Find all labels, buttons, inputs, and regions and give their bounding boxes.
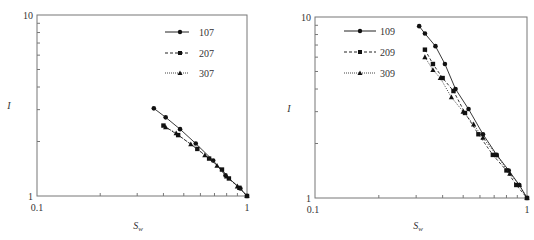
y-axis-label: I [6,100,11,111]
legend-label: 109 [380,26,395,37]
legend-label: 207 [199,48,214,59]
legend-label: 107 [199,27,214,38]
data-point-square [451,89,455,93]
legend: 107 207 307 [165,27,214,79]
y-axis-label: I [286,103,291,114]
data-point-triangle [188,142,193,147]
series-line-307 [166,127,247,196]
data-point-square [431,62,435,66]
figure: 10 1 0.1 1 I Sw 107 207 307 10 1 0.1 1 I… [0,0,534,240]
series-layer [417,24,530,200]
legend-label: 307 [199,68,214,79]
data-point-circle [152,106,157,111]
data-point-circle [423,31,428,36]
plot-frame [315,17,527,198]
x-tick-label-right: 1 [245,202,250,213]
data-point-circle [178,127,183,132]
plot-frame [37,15,247,196]
y-tick-label-bottom: 1 [28,191,33,202]
x-tick-label-left: 0.1 [307,204,320,215]
data-point-circle [417,24,422,29]
x-tick-label-right: 1 [525,204,530,215]
data-point-circle [433,44,438,49]
data-point-circle [193,141,198,146]
data-point-triangle [422,54,427,59]
chart-right: 10 1 0.1 1 I Sw 109 209 309 [286,12,529,233]
legend: 109 209 309 [344,26,395,79]
series-line-109 [419,26,527,198]
data-point-circle [163,115,168,120]
legend-label: 209 [380,47,395,58]
x-tick-label-left: 0.1 [31,202,44,213]
series-layer [152,106,250,198]
data-point-square [504,168,508,172]
y-tick-label-top: 10 [23,10,33,21]
data-point-square [220,167,224,171]
data-point-square [491,153,495,157]
y-tick-label-bottom: 1 [306,193,311,204]
data-point-circle [466,107,471,112]
legend-label: 309 [380,68,395,79]
y-tick-label-top: 10 [301,12,311,23]
x-axis-label: Sw [413,220,423,233]
data-point-triangle [449,95,454,100]
data-point-circle [443,62,448,67]
data-point-square [423,47,427,51]
x-axis-label: Sw [133,220,143,233]
data-point-triangle [430,67,435,72]
chart-left: 10 1 0.1 1 I Sw 107 207 307 [6,10,249,233]
